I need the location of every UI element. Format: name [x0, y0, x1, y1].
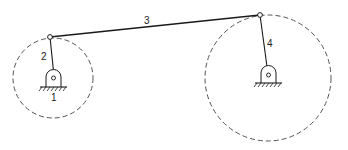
coupler-link	[50, 15, 260, 37]
four-bar-linkage-diagram: 2 1 3 4	[0, 0, 348, 150]
label-coupler: 3	[144, 15, 150, 26]
label-crank: 2	[41, 51, 47, 62]
coupler-rocker-joint	[258, 13, 263, 18]
left-ground-pivot-icon	[39, 70, 67, 91]
label-rocker: 4	[267, 38, 273, 49]
label-ground: 1	[51, 92, 57, 103]
crank-coupler-joint	[48, 35, 53, 40]
right-ground-pivot-icon	[254, 66, 282, 88]
